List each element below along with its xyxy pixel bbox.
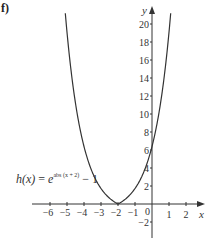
y-tick-label: 14	[139, 73, 149, 84]
x-tick-label: −4	[77, 207, 88, 218]
equals-sign: =	[38, 172, 45, 186]
function-plot: −6−5−4−3−2−112 −22468101214161820 x y 0	[0, 0, 208, 243]
x-tick-label: 1	[167, 209, 172, 220]
y-axis-label: y	[141, 4, 147, 16]
y-tick-label: 16	[139, 55, 149, 66]
x-tick-label: −2	[111, 207, 122, 218]
y-tick-label: 12	[139, 91, 149, 102]
y-tick-label: 18	[139, 37, 149, 48]
function-name: h(x)	[16, 172, 35, 186]
y-tick-label: 2	[144, 181, 149, 192]
y-tick-label: 6	[144, 145, 149, 156]
y-ticks: −22468101214161820	[138, 19, 152, 228]
x-tick-label: −3	[94, 207, 105, 218]
exponent: abs (x + 2)	[53, 172, 79, 178]
origin-label: 0	[145, 206, 150, 217]
y-tick-label: 20	[139, 19, 149, 30]
x-tick-label: −6	[43, 207, 54, 218]
y-tick-label: −2	[138, 217, 149, 228]
x-axis-arrow-icon	[197, 201, 205, 207]
x-ticks: −6−5−4−3−2−112	[43, 202, 189, 220]
x-tick-label: 2	[184, 209, 189, 220]
x-tick-label: −1	[128, 207, 139, 218]
y-tick-label: 10	[139, 109, 149, 120]
y-axis-arrow-icon	[149, 6, 155, 14]
x-axis-label: x	[198, 208, 204, 220]
x-tick-label: −5	[60, 207, 71, 218]
y-tick-label: 8	[144, 127, 149, 138]
minus-one: − 1	[82, 172, 98, 186]
function-label: h(x) = eabs (x + 2) − 1	[16, 172, 98, 187]
